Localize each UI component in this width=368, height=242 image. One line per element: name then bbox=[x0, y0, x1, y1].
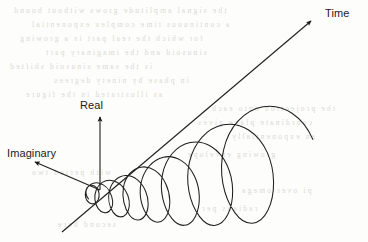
axis-label-real: Real bbox=[80, 99, 103, 111]
axis-imaginary bbox=[35, 162, 100, 190]
axis-label-time: Time bbox=[325, 7, 349, 19]
helix-diagram-svg bbox=[0, 0, 368, 242]
helix-curve bbox=[85, 92, 323, 231]
axis-label-imaginary: Imaginary bbox=[7, 147, 56, 159]
figure-canvas: the signal amplitude grows without bound… bbox=[0, 0, 368, 242]
